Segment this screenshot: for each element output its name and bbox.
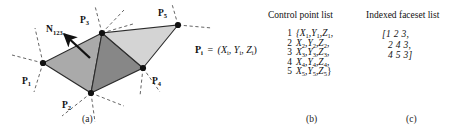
point-equation-sub-y: i [239, 49, 241, 56]
control-point-y-sub: 1 [317, 32, 320, 39]
faceset-row: [1 2 3, [382, 29, 413, 40]
point-equation-equals: = [207, 44, 213, 55]
dashed-ray [35, 28, 43, 63]
control-point-index: 5 [282, 67, 292, 77]
vertex-dot-p4 [140, 65, 146, 71]
control-point-sep: } [327, 66, 332, 76]
control-point-z: ,Z [316, 57, 324, 67]
control-point-y-sub: 5 [313, 70, 316, 77]
point-equation-lhs-sub: i [201, 49, 203, 56]
panel-a-drawing: P1 P2 P3 P4 P5 N123 [0, 0, 459, 134]
control-point-sep: , [331, 28, 333, 38]
control-point-sep: , [327, 38, 329, 48]
control-point-z: ,Z [316, 47, 324, 57]
control-point-z-sub: 5 [324, 70, 327, 77]
dashed-ray [102, 10, 124, 33]
control-point-x-sub: 3 [302, 51, 305, 58]
control-point-sep: , [327, 47, 329, 57]
control-point-x: {X [296, 28, 306, 38]
indexed-faceset-list: [1 2 3, 2 4 3, 4 5 3] [382, 29, 413, 61]
control-point-y: ,Y [305, 47, 313, 57]
control-point-x-sub: 2 [302, 42, 305, 49]
point-equation-sub-z: i [252, 49, 254, 56]
vertex-label-p4: P4 [152, 76, 162, 87]
dashed-ray [178, 25, 212, 28]
dashed-ray [95, 6, 102, 33]
control-point-x-sub: 4 [302, 61, 305, 68]
control-point-y: ,Y [305, 66, 313, 76]
control-point-x-sub: 1 [306, 32, 309, 39]
vertex-dot-p1 [40, 60, 46, 66]
point-equation-rhs-y: , Y [229, 44, 240, 55]
control-point-x: X [296, 57, 302, 67]
control-point-y-sub: 3 [313, 51, 316, 58]
control-point-x-sub: 5 [302, 70, 305, 77]
control-point-y-sub: 4 [313, 61, 316, 68]
panel-caption-b: (b) [306, 114, 317, 124]
dashed-ray [12, 55, 43, 63]
panel-caption-c: (c) [406, 114, 417, 124]
dashed-ray [34, 63, 43, 92]
control-point-z-sub: 2 [324, 42, 327, 49]
faceset-row: 2 4 3, [382, 40, 413, 51]
control-point-z: ,Z [316, 66, 324, 76]
control-point-y: ,Y [309, 28, 317, 38]
dashed-ray [91, 93, 124, 106]
control-point-z-sub: 1 [327, 32, 330, 39]
vertex-dot-p5 [175, 22, 181, 28]
point-equation-close: ) [254, 44, 257, 55]
control-point-z-sub: 4 [324, 61, 327, 68]
control-point-list-heading: Control point list [268, 10, 333, 20]
vertex-dot-p3 [99, 30, 105, 36]
dashed-ray [140, 68, 143, 96]
point-equation-rhs-open: (X [218, 44, 227, 55]
control-point-y-sub: 2 [313, 42, 316, 49]
control-point-x: X [296, 47, 302, 57]
control-point-x: X [296, 66, 302, 76]
vertex-label-p2: P2 [62, 100, 71, 111]
vertex-label-p5: P5 [158, 8, 168, 19]
faceset-row: 4 5 3] [382, 50, 413, 61]
control-point-z: ,Z [316, 38, 324, 48]
indexed-faceset-list-heading: Indexed faceset list [366, 10, 439, 20]
point-equation: Pi = (Xi, Yi, Zi) [195, 44, 257, 55]
point-equation-sub-x: i [227, 49, 229, 56]
control-point-list: 1{X1,Y1,Z1, 2X2,Y2,Z2, 3X3,Y3,Z3, 4X4,Y4… [282, 29, 333, 77]
point-equation-rhs-z: , Z [241, 44, 252, 55]
figure-mesh-representation: P1 P2 P3 P4 P5 N123 Pi = (Xi, Yi, Zi) Co… [0, 0, 459, 134]
control-point-x: X [296, 38, 302, 48]
control-point-y: ,Y [305, 57, 313, 67]
vertex-dot-p2 [88, 90, 94, 96]
control-point-row: 5X5,Y5,Z5} [282, 67, 333, 77]
panel-caption-a: (a) [82, 114, 93, 124]
control-point-sep: , [327, 57, 329, 67]
control-point-z-sub: 3 [324, 51, 327, 58]
vertex-label-p3: P3 [80, 15, 90, 26]
vertex-label-p1: P1 [22, 76, 31, 87]
dashed-ray [172, 4, 178, 25]
normal-vector-label: N123 [46, 24, 63, 36]
control-point-y: ,Y [305, 38, 313, 48]
